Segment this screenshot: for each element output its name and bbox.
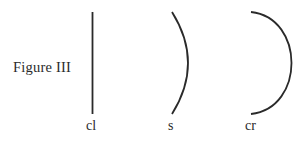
figure-drawing [0,0,305,141]
label-s: s [168,118,173,134]
label-cl: cl [86,118,96,134]
label-cr: cr [245,118,256,134]
deep-arc-cr [251,12,292,114]
shallow-arc-s [172,12,188,114]
